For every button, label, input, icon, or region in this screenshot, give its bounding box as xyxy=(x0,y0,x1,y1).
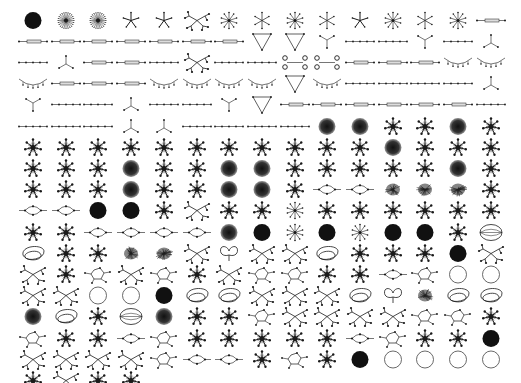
graph-thumbnail-tree xyxy=(181,10,213,31)
bar-icon xyxy=(181,31,213,52)
graph-thumbnail-spider xyxy=(442,222,474,243)
graph-thumbnail-tree xyxy=(311,306,343,327)
gdisc-icon xyxy=(148,306,180,327)
graph-thumbnail-eye xyxy=(475,222,507,243)
graph-thumbnail-disc xyxy=(311,222,343,243)
fuzz-icon xyxy=(377,179,409,200)
spider-icon xyxy=(344,200,376,221)
spider-icon xyxy=(279,328,311,349)
tree-icon xyxy=(82,349,114,370)
graph-thumbnail-arc xyxy=(148,73,180,94)
graph-thumbnail-chain xyxy=(409,73,441,94)
graph-thumbnail-spider xyxy=(246,349,278,370)
graph-thumbnail-spider xyxy=(82,158,114,179)
graph-thumbnail-heart xyxy=(213,243,245,264)
graph-thumbnail-spider xyxy=(311,349,343,370)
graph-thumbnail-spider xyxy=(344,200,376,221)
graph-thumbnail-spider xyxy=(213,306,245,327)
spider-icon xyxy=(246,137,278,158)
graph-thumbnail-spider xyxy=(148,158,180,179)
gdisc-icon xyxy=(115,158,147,179)
graph-thumbnail-spider xyxy=(344,158,376,179)
graph-thumbnail-disc xyxy=(17,10,49,31)
graph-thumbnail-spider xyxy=(409,116,441,137)
graph-thumbnail-tree xyxy=(246,243,278,264)
graph-thumbnail-bar xyxy=(311,94,343,115)
graph-thumbnail-spider xyxy=(311,264,343,285)
eye-icon xyxy=(115,306,147,327)
chain-icon xyxy=(148,52,180,73)
graph-thumbnail-eye xyxy=(115,306,147,327)
cycle-icon xyxy=(82,264,114,285)
graph-thumbnail-spider xyxy=(475,200,507,221)
spider-icon xyxy=(148,200,180,221)
loop-icon xyxy=(475,285,507,306)
spider-icon xyxy=(311,200,343,221)
cycle-icon xyxy=(148,264,180,285)
ring-icon xyxy=(475,349,507,370)
graph-thumbnail-spider xyxy=(475,306,507,327)
disc-icon xyxy=(475,328,507,349)
graph-thumbnail-gdisc xyxy=(442,116,474,137)
graph-thumbnail-spider xyxy=(475,137,507,158)
graph-thumbnail-spider xyxy=(148,200,180,221)
spider-icon xyxy=(475,306,507,327)
graph-thumbnail-tree xyxy=(475,243,507,264)
graph-thumbnail-lens xyxy=(50,200,82,221)
graph-thumbnail-gdisc xyxy=(213,158,245,179)
tree-icon xyxy=(213,264,245,285)
graph-thumbnail-spider xyxy=(148,179,180,200)
gdisc-icon xyxy=(115,179,147,200)
spider-icon xyxy=(148,137,180,158)
graph-thumbnail-bar xyxy=(442,94,474,115)
loop-icon xyxy=(213,285,245,306)
dumbbell-icon xyxy=(279,52,311,73)
spider-icon xyxy=(344,243,376,264)
bar-icon xyxy=(279,94,311,115)
graph-thumbnail-disc xyxy=(82,200,114,221)
graph-thumbnail-chain xyxy=(17,116,49,137)
bar-icon xyxy=(311,94,343,115)
spider-icon xyxy=(344,264,376,285)
spider-icon xyxy=(181,328,213,349)
graph-thumbnail-tri xyxy=(475,31,507,52)
graph-thumbnail-disc xyxy=(115,200,147,221)
chain-icon xyxy=(213,116,245,137)
graph-thumbnail-spider xyxy=(279,179,311,200)
graph-thumbnail-lens xyxy=(115,222,147,243)
graph-thumbnail-chain xyxy=(246,52,278,73)
fuzz-icon xyxy=(148,243,180,264)
graph-thumbnail-chain xyxy=(475,94,507,115)
tree-icon xyxy=(50,370,82,383)
disc-icon xyxy=(17,10,49,31)
graph-thumbnail-cycle xyxy=(279,349,311,370)
graph-thumbnail-spider xyxy=(181,137,213,158)
graph-thumbnail-spider xyxy=(475,179,507,200)
spider-icon xyxy=(17,222,49,243)
ring-icon xyxy=(475,264,507,285)
graph-thumbnail-tri xyxy=(475,73,507,94)
tree-icon xyxy=(377,306,409,327)
graph-thumbnail-bar xyxy=(181,31,213,52)
bar-icon xyxy=(377,52,409,73)
spider-icon xyxy=(409,116,441,137)
tree-icon xyxy=(344,306,376,327)
chain-icon xyxy=(17,52,49,73)
graph-thumbnail-spider xyxy=(50,222,82,243)
loop-icon xyxy=(344,285,376,306)
graph-thumbnail-ring xyxy=(377,349,409,370)
graph-thumbnail-tree xyxy=(311,285,343,306)
graph-thumbnail-spider xyxy=(213,328,245,349)
graph-thumbnail-spider xyxy=(279,158,311,179)
graph-thumbnail-chain xyxy=(50,94,82,115)
loop-icon xyxy=(181,285,213,306)
graph-thumbnail-tri xyxy=(148,116,180,137)
graph-thumbnail-spider xyxy=(181,264,213,285)
graph-thumbnail-chain xyxy=(181,94,213,115)
graph-thumbnail-chain xyxy=(213,52,245,73)
spokes-icon xyxy=(442,10,474,31)
graph-thumbnail-disc xyxy=(377,222,409,243)
spider-icon xyxy=(50,158,82,179)
graph-thumbnail-loop xyxy=(181,285,213,306)
graph-thumbnail-disc xyxy=(246,222,278,243)
